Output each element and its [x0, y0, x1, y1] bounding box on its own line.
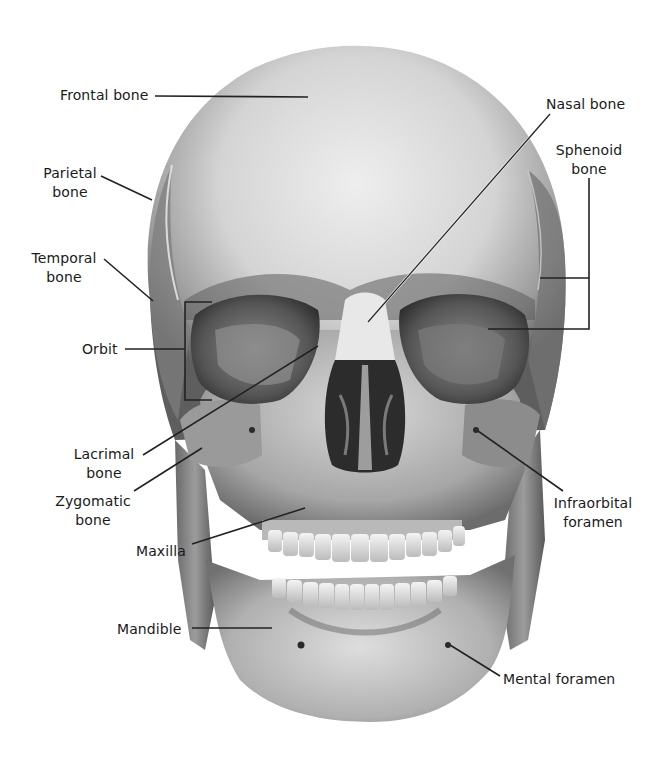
label-infraorbital-foramen: Infraorbital foramen: [549, 494, 637, 532]
label-nasal-bone: Nasal bone: [546, 95, 625, 114]
leader-temporal: [104, 259, 153, 301]
mandible: [205, 555, 515, 722]
label-sphenoid-bone: Sphenoid bone: [552, 141, 626, 179]
label-lacrimal-bone: Lacrimal bone: [70, 445, 138, 483]
skull-illustration: [0, 0, 663, 774]
label-mental-foramen: Mental foramen: [503, 670, 615, 689]
zygomatic-right: [462, 399, 540, 467]
label-zygomatic-bone: Zygomatic bone: [52, 492, 134, 530]
leader-parietal: [101, 176, 152, 200]
label-maxilla: Maxilla: [136, 542, 186, 561]
skull-diagram: Frontal bone Parietal bone Temporal bone…: [0, 0, 663, 774]
label-orbit: Orbit: [82, 340, 118, 359]
upper-teeth: [262, 520, 465, 562]
label-parietal-bone: Parietal bone: [38, 164, 102, 202]
label-temporal-bone: Temporal bone: [28, 249, 100, 287]
leader-frontal: [155, 96, 308, 97]
label-frontal-bone: Frontal bone: [60, 86, 148, 105]
label-mandible: Mandible: [117, 620, 182, 639]
zygomatic-left: [180, 400, 262, 467]
